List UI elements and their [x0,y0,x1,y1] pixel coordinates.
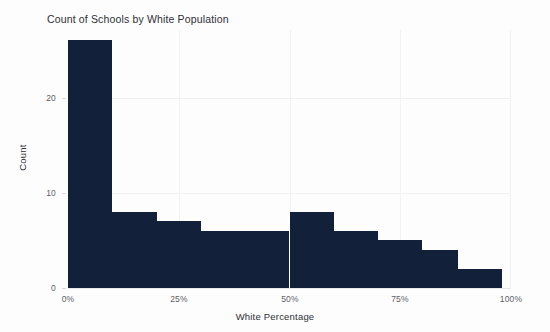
chart-figure: Count of Schools by White Population 20 … [0,0,550,332]
x-tick-label-75: 75% [377,294,423,304]
y-axis: 20 10 0 Count [0,0,550,332]
x-tick-label-25: 25% [156,294,202,304]
y-tick-mark-0 [62,288,66,289]
x-tick-label-100: 100% [488,294,534,304]
x-tick-label-50: 50% [267,294,313,304]
y-tick-mark-10 [62,193,66,194]
y-tick-label-0: 0 [30,283,56,293]
y-tick-mark-20 [62,98,66,99]
x-axis-label: White Percentage [0,311,550,322]
y-tick-label-10: 10 [30,188,56,198]
y-tick-label-20: 20 [30,93,56,103]
x-tick-label-0: 0% [45,294,91,304]
y-axis-label: Count [17,128,28,188]
